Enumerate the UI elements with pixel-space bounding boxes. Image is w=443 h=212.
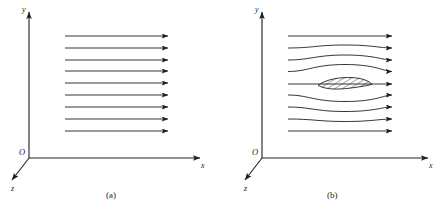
x-axis-label-a: x: [200, 161, 205, 170]
z-axis-label-a: z: [10, 184, 15, 193]
streamline: [288, 65, 392, 72]
panel-b-axes: y x z O: [243, 5, 433, 193]
panel-a: y x z O: [10, 5, 205, 193]
z-axis-label-b: z: [243, 184, 248, 193]
origin-label-b: O: [252, 147, 258, 157]
streamline: [288, 45, 392, 48]
panel-b-caption: (b): [327, 190, 338, 200]
streamline: [288, 95, 392, 102]
flow-arrows-a: [65, 36, 168, 131]
streamline: [288, 107, 392, 112]
streamline: [288, 119, 392, 122]
z-axis-a: [12, 158, 29, 180]
z-axis-b: [245, 158, 262, 180]
airfoil-outline: [318, 78, 372, 90]
panel-a-axes: y x z O: [10, 5, 205, 193]
panel-a-caption: (a): [106, 190, 116, 200]
origin-label-a: O: [19, 147, 25, 157]
figure-container: y x z O y: [0, 0, 443, 212]
figure-svg: y x z O y: [0, 0, 443, 212]
airfoil-body: [318, 78, 372, 90]
x-axis-label-b: x: [428, 161, 433, 170]
y-axis-label-b: y: [254, 5, 259, 14]
panel-b: y x z O: [243, 5, 433, 193]
streamline: [288, 55, 392, 60]
y-axis-label-a: y: [21, 5, 26, 14]
